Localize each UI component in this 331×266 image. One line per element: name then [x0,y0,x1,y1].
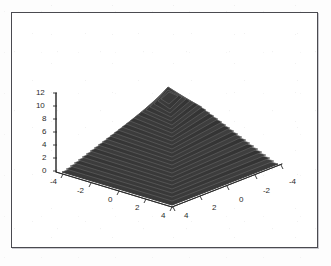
x-tick-neg4: -4 [50,178,57,186]
y-tick-neg2: -2 [263,187,270,195]
z-tick-8: 8 [42,115,46,123]
z-tick-10: 10 [36,102,45,110]
x-tick-neg2: -2 [77,187,84,195]
y-tick-4: 4 [184,212,188,220]
x-tick-2: 2 [135,204,139,212]
z-tick-6: 6 [42,128,46,136]
x-tick-4: 4 [161,212,165,220]
y-tick-neg4: -4 [289,178,296,186]
z-tick-12: 12 [36,89,45,97]
z-tick-2: 2 [42,154,46,162]
y-tick-0: 0 [239,196,243,204]
y-tick-2: 2 [212,204,216,212]
z-tick-0: 0 [42,167,46,175]
z-tick-4: 4 [42,141,46,149]
x-tick-0: 0 [108,196,112,204]
figure-page: 12 10 8 6 4 2 0 -4 -2 0 2 4 4 2 0 -2 -4 [0,0,331,266]
